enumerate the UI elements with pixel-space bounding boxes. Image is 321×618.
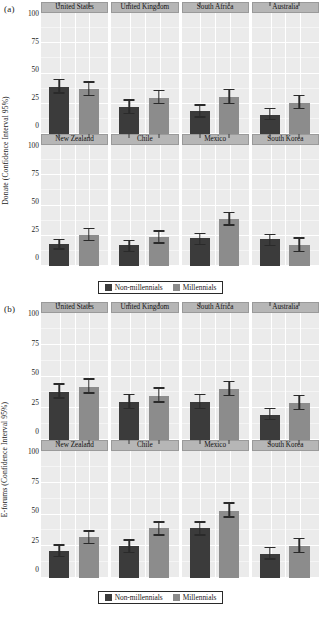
- bar-column-millennials[interactable]: [79, 13, 99, 134]
- x-axis-ticks: [41, 134, 108, 139]
- panel-a-letter: (a): [4, 4, 15, 14]
- x-tick: [299, 2, 300, 6]
- bar[interactable]: [190, 528, 210, 578]
- bar-column-non-millennials[interactable]: [119, 451, 139, 578]
- error-bar-cap-upper: [224, 502, 235, 503]
- bar-column-non-millennials[interactable]: [49, 313, 69, 440]
- error-bar-cap-upper: [264, 234, 275, 235]
- bar-column-millennials[interactable]: [219, 313, 239, 440]
- error-bar-cap-upper: [124, 539, 135, 540]
- bar-column-non-millennials[interactable]: [190, 145, 210, 266]
- facet-row-1-a: 1007550250United StatesUnited KingdomSou…: [16, 2, 319, 134]
- bar[interactable]: [49, 392, 69, 440]
- x-axis-ticks: [41, 440, 108, 445]
- bar-column-non-millennials[interactable]: [190, 13, 210, 134]
- x-tick: [229, 2, 230, 6]
- x-axis-ticks: [252, 440, 319, 445]
- x-tick: [88, 2, 89, 6]
- bar-column-millennials[interactable]: [79, 145, 99, 266]
- error-bar-cap-lower: [224, 224, 235, 225]
- x-tick: [129, 302, 130, 306]
- bar-column-millennials[interactable]: [289, 145, 309, 266]
- y-tick-label: 0: [16, 121, 40, 130]
- x-tick: [299, 134, 300, 138]
- panel-a-plot-area: 1007550250United StatesUnited KingdomSou…: [16, 2, 319, 266]
- error-bar: [269, 548, 270, 559]
- bar-column-non-millennials[interactable]: [260, 313, 280, 440]
- error-bar-cap-upper: [194, 104, 205, 105]
- error-bar-cap-lower: [294, 251, 305, 252]
- facet-plot-region: [252, 313, 319, 440]
- facet-plot-region: [41, 451, 108, 578]
- bar-column-millennials[interactable]: [79, 313, 99, 440]
- x-tick: [269, 302, 270, 306]
- bar-column-non-millennials[interactable]: [190, 313, 210, 440]
- error-bar-cap-lower: [54, 248, 65, 249]
- bar-column-millennials[interactable]: [149, 13, 169, 134]
- y-axis-b-row1: 1007550250: [16, 302, 40, 440]
- bar-column-millennials[interactable]: [219, 13, 239, 134]
- y-axis-a-row2: 1007550250: [16, 134, 40, 266]
- bar-column-millennials[interactable]: [219, 451, 239, 578]
- bar[interactable]: [219, 219, 239, 266]
- error-bar-cap-lower: [83, 392, 94, 393]
- bar-column-non-millennials[interactable]: [119, 145, 139, 266]
- error-bar-cap-upper: [294, 95, 305, 96]
- bar-column-millennials[interactable]: [149, 451, 169, 578]
- panel-b-y-axis-label-text: E-forums (Confidence Interval 95%): [1, 401, 10, 516]
- bar-column-non-millennials[interactable]: [119, 313, 139, 440]
- bar-column-millennials[interactable]: [289, 313, 309, 440]
- legend-swatch: [105, 284, 112, 291]
- bar-column-non-millennials[interactable]: [260, 13, 280, 134]
- x-tick: [88, 302, 89, 306]
- x-tick: [88, 134, 89, 138]
- bar[interactable]: [79, 387, 99, 440]
- bar-column-millennials[interactable]: [79, 451, 99, 578]
- bar-column-millennials[interactable]: [149, 313, 169, 440]
- error-bar: [158, 231, 159, 243]
- x-axis-ticks: [111, 440, 178, 445]
- error-bar: [199, 522, 200, 535]
- bar-column-non-millennials[interactable]: [49, 451, 69, 578]
- error-bar-cap-upper: [224, 212, 235, 213]
- legend-item-millennials[interactable]: Millennials: [173, 284, 217, 291]
- bar-column-non-millennials[interactable]: [49, 13, 69, 134]
- x-tick: [129, 134, 130, 138]
- bar-column-non-millennials[interactable]: [260, 145, 280, 266]
- y-tick-label: 75: [16, 476, 40, 485]
- x-tick: [229, 134, 230, 138]
- bar-column-non-millennials[interactable]: [260, 451, 280, 578]
- bar-group: [111, 13, 178, 134]
- error-bar: [88, 379, 89, 393]
- error-bar-cap-lower: [224, 516, 235, 517]
- bar-column-millennials[interactable]: [289, 451, 309, 578]
- y-tick-label: 25: [16, 397, 40, 406]
- error-bar-cap-lower: [153, 401, 164, 402]
- legend-item-millennials[interactable]: Millennials: [173, 594, 217, 601]
- bar-column-non-millennials[interactable]: [49, 145, 69, 266]
- x-tick: [269, 2, 270, 6]
- bar[interactable]: [219, 389, 239, 440]
- facet-mexico: Mexico: [182, 440, 249, 578]
- facet-new-zealand: New Zealand: [41, 134, 108, 266]
- legend-item-non-millennials[interactable]: Non-millennials: [105, 594, 163, 601]
- bar[interactable]: [49, 87, 69, 134]
- bar-column-millennials[interactable]: [289, 13, 309, 134]
- error-bar: [158, 388, 159, 402]
- bar-column-millennials[interactable]: [219, 145, 239, 266]
- error-bar-cap-lower: [264, 558, 275, 559]
- facet-plot-region: [252, 145, 319, 266]
- error-bar: [199, 105, 200, 117]
- bar[interactable]: [149, 528, 169, 578]
- error-bar-cap-lower: [294, 409, 305, 410]
- bar-group: [111, 451, 178, 578]
- bar-column-non-millennials[interactable]: [190, 451, 210, 578]
- legend-item-non-millennials[interactable]: Non-millennials: [105, 284, 163, 291]
- error-bar: [199, 394, 200, 408]
- y-tick-label: 0: [16, 253, 40, 262]
- error-bar: [129, 100, 130, 113]
- error-bar-cap-lower: [294, 108, 305, 109]
- bar-column-millennials[interactable]: [149, 145, 169, 266]
- bar-column-non-millennials[interactable]: [119, 13, 139, 134]
- bar[interactable]: [219, 511, 239, 578]
